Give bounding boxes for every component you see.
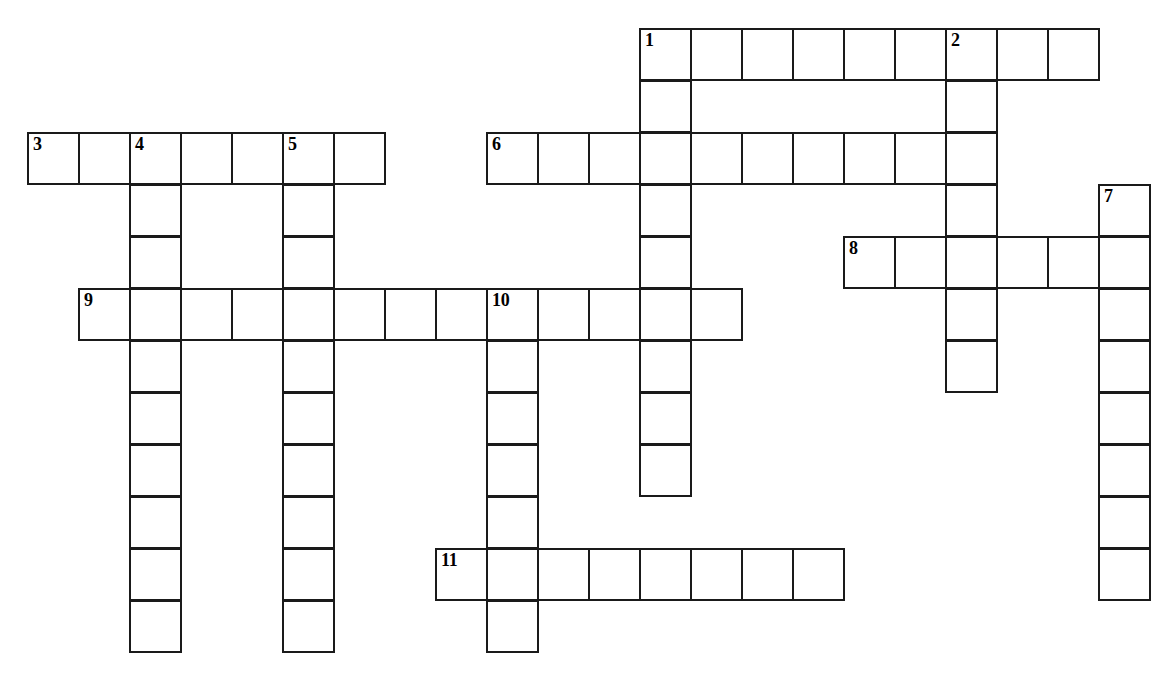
crossword-cell[interactable] bbox=[792, 548, 845, 601]
crossword-cell[interactable] bbox=[741, 132, 794, 185]
crossword-cell[interactable] bbox=[282, 288, 335, 341]
crossword-cell-numbered-3[interactable]: 3 bbox=[27, 132, 80, 185]
cell-number-6: 6 bbox=[492, 135, 501, 154]
crossword-cell[interactable] bbox=[282, 600, 335, 653]
crossword-cell[interactable] bbox=[537, 548, 590, 601]
crossword-cell[interactable] bbox=[129, 548, 182, 601]
crossword-cell-numbered-6[interactable]: 6 bbox=[486, 132, 539, 185]
crossword-cell[interactable] bbox=[894, 28, 947, 81]
crossword-cell[interactable] bbox=[1098, 392, 1151, 445]
crossword-cell[interactable] bbox=[945, 184, 998, 237]
crossword-cell[interactable] bbox=[945, 132, 998, 185]
crossword-cell[interactable] bbox=[129, 340, 182, 393]
crossword-cell[interactable] bbox=[180, 288, 233, 341]
cell-number-10: 10 bbox=[492, 291, 509, 310]
crossword-cell[interactable] bbox=[843, 132, 896, 185]
crossword-cell[interactable] bbox=[282, 236, 335, 289]
crossword-cell[interactable] bbox=[486, 496, 539, 549]
crossword-cell[interactable] bbox=[843, 28, 896, 81]
crossword-cell[interactable] bbox=[129, 600, 182, 653]
crossword-cell[interactable] bbox=[945, 288, 998, 341]
crossword-cell[interactable] bbox=[333, 132, 386, 185]
crossword-cell[interactable] bbox=[78, 132, 131, 185]
crossword-cell[interactable] bbox=[537, 288, 590, 341]
crossword-cell[interactable] bbox=[1047, 28, 1100, 81]
crossword-cell[interactable] bbox=[129, 392, 182, 445]
cell-number-7: 7 bbox=[1104, 187, 1113, 206]
crossword-cell[interactable] bbox=[1098, 548, 1151, 601]
crossword-cell-numbered-9[interactable]: 9 bbox=[78, 288, 131, 341]
crossword-cell-numbered-5[interactable]: 5 bbox=[282, 132, 335, 185]
crossword-cell[interactable] bbox=[894, 132, 947, 185]
crossword-cell[interactable] bbox=[690, 28, 743, 81]
cell-number-8: 8 bbox=[849, 239, 858, 258]
crossword-cell-numbered-8[interactable]: 8 bbox=[843, 236, 896, 289]
crossword-cell[interactable] bbox=[1098, 340, 1151, 393]
crossword-cell[interactable] bbox=[282, 340, 335, 393]
crossword-cell[interactable] bbox=[129, 236, 182, 289]
crossword-cell[interactable] bbox=[639, 236, 692, 289]
crossword-cell[interactable] bbox=[1098, 236, 1151, 289]
crossword-cell[interactable] bbox=[282, 444, 335, 497]
crossword-cell[interactable] bbox=[639, 80, 692, 133]
crossword-cell[interactable] bbox=[741, 548, 794, 601]
cell-number-2: 2 bbox=[951, 31, 960, 50]
crossword-cell[interactable] bbox=[129, 444, 182, 497]
crossword-cell[interactable] bbox=[282, 548, 335, 601]
cell-number-9: 9 bbox=[84, 291, 93, 310]
crossword-cell[interactable] bbox=[282, 496, 335, 549]
crossword-cell[interactable] bbox=[792, 132, 845, 185]
crossword-cell[interactable] bbox=[792, 28, 845, 81]
crossword-cell[interactable] bbox=[333, 288, 386, 341]
crossword-cell[interactable] bbox=[435, 288, 488, 341]
crossword-cell[interactable] bbox=[690, 288, 743, 341]
crossword-cell[interactable] bbox=[945, 340, 998, 393]
crossword-cell[interactable] bbox=[1098, 444, 1151, 497]
crossword-cell[interactable] bbox=[639, 548, 692, 601]
crossword-cell[interactable] bbox=[894, 236, 947, 289]
crossword-cell[interactable] bbox=[639, 340, 692, 393]
crossword-cell[interactable] bbox=[588, 288, 641, 341]
crossword-cell-numbered-10[interactable]: 10 bbox=[486, 288, 539, 341]
crossword-cell[interactable] bbox=[588, 132, 641, 185]
crossword-cell[interactable] bbox=[741, 28, 794, 81]
crossword-cell[interactable] bbox=[486, 444, 539, 497]
crossword-cell[interactable] bbox=[639, 288, 692, 341]
crossword-cell[interactable] bbox=[231, 132, 284, 185]
crossword-cell[interactable] bbox=[639, 392, 692, 445]
crossword-cell-numbered-7[interactable]: 7 bbox=[1098, 184, 1151, 237]
crossword-cell[interactable] bbox=[129, 184, 182, 237]
crossword-cell[interactable] bbox=[231, 288, 284, 341]
crossword-cell-numbered-4[interactable]: 4 bbox=[129, 132, 182, 185]
crossword-cell[interactable] bbox=[996, 236, 1049, 289]
crossword-cell[interactable] bbox=[996, 28, 1049, 81]
crossword-cell[interactable] bbox=[1098, 288, 1151, 341]
crossword-cell-numbered-2[interactable]: 2 bbox=[945, 28, 998, 81]
crossword-grid[interactable]: 1234567891011 bbox=[0, 0, 1153, 677]
crossword-cell-numbered-1[interactable]: 1 bbox=[639, 28, 692, 81]
crossword-cell[interactable] bbox=[588, 548, 641, 601]
crossword-cell[interactable] bbox=[180, 132, 233, 185]
crossword-cell[interactable] bbox=[384, 288, 437, 341]
crossword-cell[interactable] bbox=[639, 444, 692, 497]
cell-number-4: 4 bbox=[135, 135, 144, 154]
crossword-cell[interactable] bbox=[486, 548, 539, 601]
crossword-cell[interactable] bbox=[537, 132, 590, 185]
crossword-cell[interactable] bbox=[945, 80, 998, 133]
crossword-cell[interactable] bbox=[282, 184, 335, 237]
crossword-cell[interactable] bbox=[639, 184, 692, 237]
crossword-cell[interactable] bbox=[486, 392, 539, 445]
crossword-cell[interactable] bbox=[1098, 496, 1151, 549]
crossword-cell[interactable] bbox=[690, 548, 743, 601]
crossword-cell[interactable] bbox=[129, 288, 182, 341]
crossword-cell[interactable] bbox=[486, 600, 539, 653]
crossword-cell[interactable] bbox=[945, 236, 998, 289]
crossword-cell[interactable] bbox=[486, 340, 539, 393]
crossword-cell[interactable] bbox=[1047, 236, 1100, 289]
crossword-cell[interactable] bbox=[690, 132, 743, 185]
cell-number-5: 5 bbox=[288, 135, 297, 154]
crossword-cell[interactable] bbox=[129, 496, 182, 549]
crossword-cell[interactable] bbox=[282, 392, 335, 445]
crossword-cell[interactable] bbox=[639, 132, 692, 185]
crossword-cell-numbered-11[interactable]: 11 bbox=[435, 548, 488, 601]
